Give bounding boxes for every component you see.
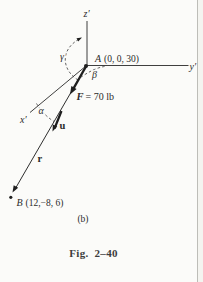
point-B-marker — [9, 196, 12, 199]
part-label: (b) — [77, 214, 88, 225]
point-B-symbol: B — [17, 197, 23, 208]
y-axis-label: y′ — [189, 61, 197, 72]
point-A-coords: (0, 0, 30) — [104, 54, 139, 65]
page-margin-strip — [198, 0, 203, 282]
figure-caption: Fig. 2–40 — [69, 247, 118, 259]
point-A-symbol: A — [94, 53, 102, 64]
beta-angle-label: β — [91, 69, 97, 80]
point-B-coords: (12,−8, 6) — [26, 198, 64, 209]
figure-2-40-diagram: z′ y′ x′ A (0, 0, 30) B (12,−8, 6) F = 7… — [0, 0, 203, 282]
page-background — [0, 0, 203, 282]
force-symbol: F — [76, 91, 84, 102]
x-axis-label: x′ — [19, 114, 27, 125]
figure-page: z′ y′ x′ A (0, 0, 30) B (12,−8, 6) F = 7… — [0, 0, 203, 282]
position-vector-label: r — [38, 153, 43, 164]
unit-vector-label: u — [60, 120, 66, 131]
point-A-marker — [84, 64, 88, 68]
force-value: = 70 lb — [86, 91, 114, 102]
z-axis-label: z′ — [83, 8, 91, 19]
alpha-angle-label: α — [39, 105, 45, 116]
